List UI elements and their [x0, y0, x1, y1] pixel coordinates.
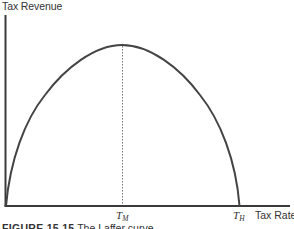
tick-th-sub: H	[239, 214, 244, 223]
laffer-curve-chart: Tax Revenue TM TH Tax Rate FIGURE 15.15 …	[0, 0, 294, 229]
figure-number: FIGURE 15.15	[2, 222, 74, 229]
figure-caption: FIGURE 15.15 The Laffer curve	[2, 222, 153, 229]
x-axis-label: Tax Rate	[255, 209, 294, 221]
chart-plot-area	[0, 0, 294, 229]
y-axis-label: Tax Revenue	[2, 0, 62, 12]
caption-text: The Laffer curve	[77, 222, 153, 229]
tick-label-th: TH	[233, 209, 245, 225]
